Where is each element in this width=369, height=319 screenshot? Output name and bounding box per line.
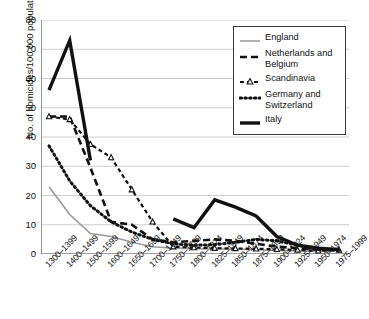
legend-item[interactable]: England: [239, 32, 341, 45]
legend-item[interactable]: Scandinavia: [239, 73, 341, 86]
legend-item[interactable]: Netherlands and Belgium: [239, 48, 341, 70]
legend-item[interactable]: Germany and Switzerland: [239, 89, 341, 111]
solid-thick-line-icon: [239, 115, 261, 127]
legend-item-label: England: [265, 32, 299, 43]
legend-marker-triangle: [247, 79, 253, 84]
dashed-line-icon: [239, 49, 261, 61]
legend-item-label: Italy: [265, 114, 282, 125]
dotted-line-icon: [239, 90, 261, 102]
legend-item-label: Germany and Switzerland: [265, 89, 341, 111]
legend-item-label: Scandinavia: [265, 73, 315, 84]
triangle-marker-line-icon: [239, 74, 261, 86]
solid-thin-line-icon: [239, 33, 261, 45]
legend-item-label: Netherlands and Belgium: [265, 48, 341, 70]
legend-item[interactable]: Italy: [239, 114, 341, 127]
chart-legend: EnglandNetherlands and BelgiumScandinavi…: [233, 26, 346, 135]
